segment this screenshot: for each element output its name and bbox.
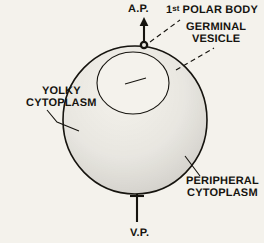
label-yolky-cytoplasm: YOLKY CYTOPLASM <box>26 86 97 110</box>
polar-body <box>140 41 149 50</box>
label-germinal-vesicle-line2: VESICLE <box>186 34 246 46</box>
label-first-polar-body: 1st POLAR BODY <box>166 5 258 17</box>
label-germinal-vesicle: GERMINAL VESICLE <box>186 22 246 46</box>
label-vegetal-pole-text: V.P. <box>130 227 149 239</box>
label-peripheral-cytoplasm: PERIPHERAL CYTOPLASM <box>186 176 259 200</box>
label-polar-body-text: POLAR BODY <box>179 4 258 16</box>
label-vegetal-pole: V.P. <box>130 228 149 240</box>
leader-polar-body <box>150 20 180 42</box>
label-animal-pole-text: A.P. <box>128 3 149 15</box>
egg-cell-diagram: A.P. V.P. 1st POLAR BODY GERMINAL VESICL… <box>0 0 264 243</box>
label-yolky-cytoplasm-line2: CYTOPLASM <box>26 98 97 110</box>
label-peripheral-cytoplasm-line2: CYTOPLASM <box>186 188 259 200</box>
vegetal-pole-marker <box>130 194 144 222</box>
label-animal-pole: A.P. <box>128 4 149 16</box>
